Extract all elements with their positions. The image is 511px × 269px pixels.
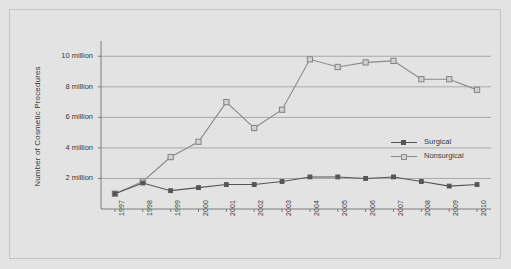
data-point-marker: [224, 99, 229, 104]
data-point-marker: [364, 177, 368, 181]
data-point-marker: [363, 60, 368, 65]
data-point-marker: [113, 192, 117, 196]
data-point-marker: [391, 58, 396, 63]
data-point-marker: [419, 180, 423, 184]
data-point-marker: [196, 139, 201, 144]
chart-frame: Number of Cosmetic Procedures 2 million4…: [9, 9, 501, 259]
data-point-marker: [168, 154, 173, 159]
data-point-marker: [474, 87, 479, 92]
data-point-marker: [224, 183, 228, 187]
legend-marker-surgical: [401, 140, 406, 145]
data-point-marker: [392, 175, 396, 179]
data-point-marker: [419, 77, 424, 82]
data-point-marker: [335, 64, 340, 69]
data-point-marker: [336, 175, 340, 179]
legend-label-surgical: Surgical: [424, 137, 451, 146]
legend-marker-nonsurgical: [401, 154, 407, 160]
data-point-marker: [307, 57, 312, 62]
legend-label-nonsurgical: Nonsurgical: [424, 151, 464, 160]
data-point-marker: [252, 183, 256, 187]
data-point-marker: [308, 175, 312, 179]
data-point-marker: [252, 125, 257, 130]
data-point-marker: [141, 181, 145, 185]
data-point-marker: [447, 77, 452, 82]
data-point-marker: [475, 183, 479, 187]
plot-area: [10, 10, 500, 258]
chart-container: Number of Cosmetic Procedures 2 million4…: [0, 0, 511, 269]
data-point-marker: [279, 107, 284, 112]
data-point-marker: [280, 180, 284, 184]
data-point-marker: [197, 186, 201, 190]
data-point-marker: [169, 189, 173, 193]
data-point-marker: [447, 184, 451, 188]
